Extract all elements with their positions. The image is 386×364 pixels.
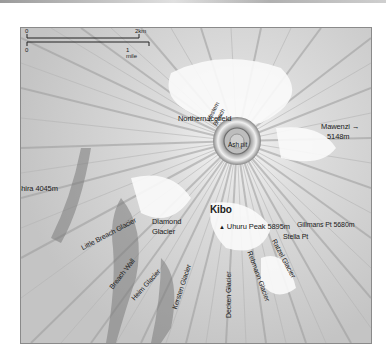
label-kibo: Kibo [210,205,232,215]
label-decken-glacier: Decken Glacier [225,272,232,318]
label-gillmans-pt: Gillmans Pt 5680m [297,221,354,228]
terrain-relief [21,28,371,343]
label-diamond-glacier-1: Diamond [152,218,181,226]
label-shira: ← Shira 4045m [20,185,58,193]
scale-km-start: 0 [25,28,28,34]
label-uhuru-peak: ▲Uhuru Peak 5895m [219,223,290,231]
summit-triangle-icon: ▲ [219,224,225,230]
label-diamond-glacier-2: Glacier [152,228,175,236]
top-edge-strip [0,0,386,3]
label-mawenzi: Mawenzi → [321,123,359,131]
label-stella-pt: Stella Pt [283,233,308,240]
scale-km-end: 2km [135,28,146,34]
label-mawenzi-alt: 5148m [327,133,349,141]
map-frame[interactable]: 0 2km 0 1 mile Northern Icefield Mawenzi… [20,27,372,344]
label-ash-pit: Ash pit [228,142,247,149]
scale-mile-start: 0 [25,47,28,53]
scale-mile-end: 1 mile [126,47,137,59]
